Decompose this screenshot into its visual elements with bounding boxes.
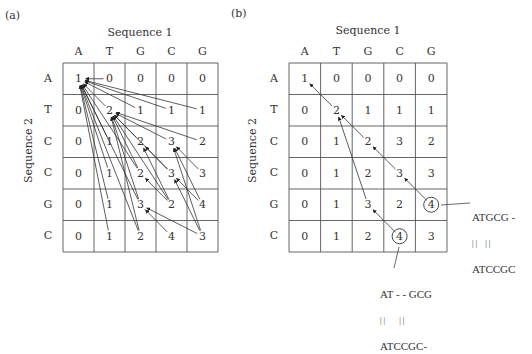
matrix-cell-value: 1 [301,72,308,85]
matrix-cell-value: 1 [137,104,144,117]
alignment-1-bottom: ATCCGC [472,265,515,274]
traceback-arrow [82,85,138,199]
matrix-cell-value: 0 [75,230,82,243]
matrix-cell-value: 0 [199,72,206,85]
matrix-cell-value: 0 [365,72,372,85]
matrix-cell-value: 4 [396,230,403,243]
matrix-cell-value: 0 [75,104,82,117]
matrix-cell-value: 0 [75,135,82,148]
matrix-cell-value: 2 [365,167,372,180]
matrix-cell-value: 2 [137,230,144,243]
matrix-cell-value: 0 [428,72,435,85]
matrix-cell-value: 4 [428,198,435,211]
matrix-cell-value: 3 [199,230,206,243]
matrix-cell-value: 0 [75,198,82,211]
matrix-cell-value: 2 [333,104,340,117]
matrix-cell-value: 3 [199,167,206,180]
matrix-cell-value: 2 [106,104,113,117]
matrix-cell-value: 2 [428,135,435,148]
matrix-cell-value: 0 [137,72,144,85]
matrix-cell-value: 0 [301,230,308,243]
matrix-cell-value: 3 [137,198,144,211]
alignment-2-bottom: ATCCGC- [380,342,432,351]
matrix-cell-value: 1 [365,104,372,117]
matrix-cell-value: 4 [199,198,206,211]
alignment-1-top: ATGCG - [472,213,515,222]
matrix-cell-value: 3 [396,135,403,148]
alignment-1-bars: | | | | [472,240,515,247]
matrix-cell-value: 2 [137,167,144,180]
matrix-cell-value: 0 [301,167,308,180]
matrix-cell-value: 2 [365,230,372,243]
matrix-cell-value: 1 [199,104,206,117]
matrix-cell-value: 3 [365,198,372,211]
matrix-cell-value: 3 [428,230,435,243]
panel-b-matrix-grid: 100000211101232012330132401243 [289,63,447,252]
matrix-cell-value: 2 [199,135,206,148]
matrix-cell-value: 3 [396,167,403,180]
alignment-1: ATGCG - | | | | ATCCGC [472,195,515,283]
matrix-cell-value: 1 [106,198,113,211]
matrix-cell-value: 0 [168,72,175,85]
matrix-cell-value: 1 [333,230,340,243]
matrix-cell-value: 0 [396,72,403,85]
matrix-cell-value: 1 [333,198,340,211]
alignment-2-top: AT - - GCG [380,290,432,299]
alignment-2-bars: | | | | [380,317,432,324]
matrix-cell-value: 1 [396,104,403,117]
matrix-cell-value: 3 [428,167,435,180]
matrix-cell-value: 2 [168,198,175,211]
matrix-cell-value: 2 [365,135,372,148]
matrix-cell-value: 3 [168,135,175,148]
matrix-cell-value: 2 [396,198,403,211]
matrix-cell-value: 1 [333,167,340,180]
matrix-cell-value: 1 [428,104,435,117]
matrix-cell-value: 4 [168,230,175,243]
matrix-cell-value: 0 [301,198,308,211]
matrix-cell-value: 0 [106,72,113,85]
matrix-cell-value: 3 [168,167,175,180]
leader-line-1 [441,203,470,205]
matrix-cell-value: 1 [106,230,113,243]
matrix-cell-value: 0 [301,104,308,117]
matrix-cell-value: 1 [168,104,175,117]
matrix-cell-value: 1 [106,167,113,180]
matrix-cell-value: 1 [75,72,82,85]
matrix-cell-value: 0 [333,72,340,85]
alignment-2: AT - - GCG | | | | ATCCGC- [380,272,432,354]
matrix-cell-value: 0 [301,135,308,148]
matrix-cell-value: 0 [75,167,82,180]
matrix-cell-value: 1 [333,135,340,148]
leader-line-2 [394,247,399,268]
